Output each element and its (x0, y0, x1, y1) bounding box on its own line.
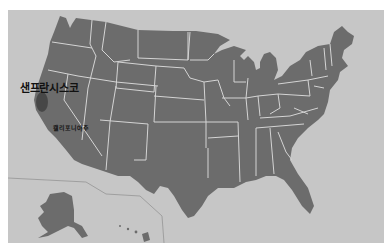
label-san-francisco: 샌프란시스코 (20, 79, 78, 95)
alaska[interactable] (38, 192, 88, 238)
highlight-blob (36, 92, 48, 112)
label-california: 캘리포니아주 (53, 123, 89, 132)
hawaii[interactable] (119, 225, 150, 242)
map-panel[interactable]: 샌프란시스코 캘리포니아주 (8, 10, 384, 243)
